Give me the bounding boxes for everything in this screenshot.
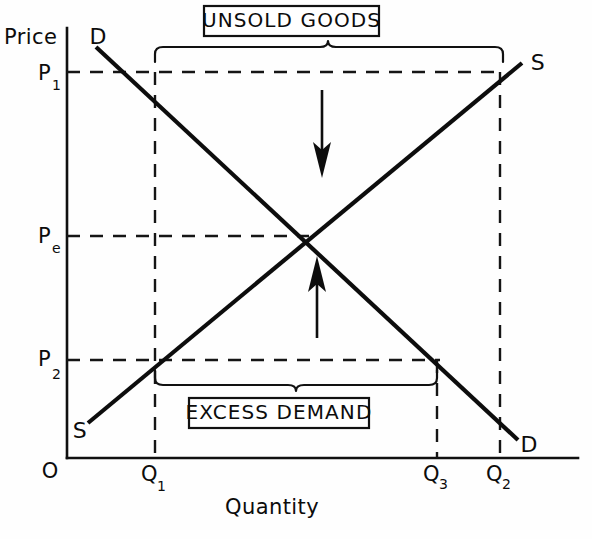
price-tick-p1-base: P bbox=[38, 61, 51, 85]
unsold-goods-brace bbox=[155, 41, 503, 62]
curves-group bbox=[88, 47, 522, 440]
supply-bottom-label: S bbox=[73, 418, 87, 443]
quantity-tick-q2: Q 2 bbox=[486, 462, 511, 492]
price-tick-pe: P e bbox=[38, 224, 61, 256]
quantity-tick-q2-base: Q bbox=[486, 462, 503, 486]
excess-demand-annotation: EXCESS DEMAND bbox=[186, 398, 373, 428]
price-tick-pe-base: P bbox=[38, 224, 51, 248]
price-tick-p1: P 1 bbox=[38, 61, 61, 93]
demand-top-label: D bbox=[89, 24, 106, 49]
price-rises-arrow bbox=[308, 256, 326, 338]
quantity-tick-q1: Q 1 bbox=[141, 462, 166, 494]
unsold-goods-label: UNSOLD GOODS bbox=[202, 8, 381, 32]
quantity-tick-q3-base: Q bbox=[423, 462, 440, 486]
top-brace-path bbox=[155, 41, 503, 62]
quantity-tick-q3: Q 3 bbox=[423, 462, 448, 492]
y-axis-title: Price bbox=[4, 25, 57, 49]
quantity-tick-labels: Q 1 Q 3 Q 2 bbox=[141, 462, 511, 494]
price-tick-p2: P 2 bbox=[38, 347, 61, 382]
price-tick-pe-sub: e bbox=[52, 240, 61, 256]
excess-demand-label: EXCESS DEMAND bbox=[186, 400, 373, 424]
bottom-brace-path bbox=[155, 370, 437, 391]
price-tick-p1-sub: 1 bbox=[52, 77, 61, 93]
price-falls-arrow bbox=[313, 90, 331, 178]
price-tick-p2-sub: 2 bbox=[52, 366, 61, 382]
price-tick-labels: P 1 P e P 2 bbox=[38, 61, 61, 382]
origin-label: O bbox=[42, 459, 59, 483]
quantity-tick-q1-base: Q bbox=[141, 462, 158, 486]
supply-top-label: S bbox=[531, 50, 545, 75]
diagram-canvas: D D S S UNSOL bbox=[0, 0, 592, 539]
quantity-tick-q2-sub: 2 bbox=[502, 476, 511, 492]
x-axis-title: Quantity bbox=[225, 495, 319, 519]
unsold-goods-annotation: UNSOLD GOODS bbox=[202, 6, 381, 36]
price-tick-p2-base: P bbox=[38, 347, 51, 371]
quantity-tick-q1-sub: 1 bbox=[157, 478, 166, 494]
supply-curve bbox=[88, 63, 522, 423]
supply-demand-figure: D D S S UNSOL bbox=[0, 0, 592, 539]
price-guide-lines bbox=[67, 72, 503, 360]
quantity-tick-q3-sub: 3 bbox=[439, 476, 448, 492]
arrows-group bbox=[308, 90, 331, 338]
excess-demand-brace bbox=[155, 370, 437, 391]
demand-bottom-label: D bbox=[520, 432, 537, 457]
